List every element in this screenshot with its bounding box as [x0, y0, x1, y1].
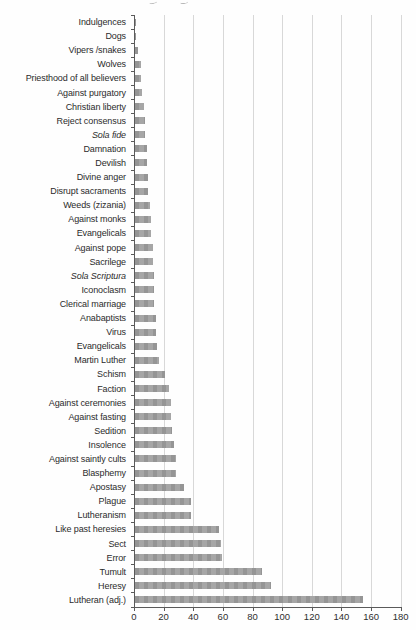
y-axis-tick	[131, 170, 134, 171]
table-row: Virus	[0, 325, 416, 339]
table-row: Devilish	[0, 156, 416, 170]
y-axis-tick	[131, 141, 134, 142]
table-row: Martin Luther	[0, 353, 416, 367]
category-label: Heresy	[0, 579, 126, 593]
table-row: Reject consensus	[0, 114, 416, 128]
table-row: Lutheranism	[0, 508, 416, 522]
category-label: Against saintly cults	[0, 452, 126, 466]
table-row: Lutheran (adj.)	[0, 593, 416, 607]
category-label: Iconoclasm	[0, 283, 126, 297]
table-row: Disrupt sacraments	[0, 184, 416, 198]
category-label: Tumult	[0, 565, 126, 579]
y-axis-tick	[131, 155, 134, 156]
category-label: Damnation	[0, 142, 126, 156]
category-label: Against ceremonies	[0, 396, 126, 410]
y-axis-tick	[131, 71, 134, 72]
bar	[135, 174, 148, 181]
bar	[135, 329, 156, 336]
category-label: Against monks	[0, 212, 126, 226]
category-label: Indulgences	[0, 15, 126, 29]
y-axis-tick	[131, 212, 134, 213]
y-axis-tick	[131, 409, 134, 410]
y-axis-tick	[131, 395, 134, 396]
y-axis-tick	[131, 564, 134, 565]
table-row: Christian liberty	[0, 100, 416, 114]
category-label: Sola fide	[0, 128, 126, 142]
y-axis-tick	[131, 29, 134, 30]
category-label: Clerical marriage	[0, 297, 126, 311]
category-label: Blasphemy	[0, 466, 126, 480]
bar	[135, 33, 136, 40]
category-label: Sedition	[0, 424, 126, 438]
y-axis-tick	[131, 127, 134, 128]
table-row: Against purgatory	[0, 85, 416, 99]
table-row: Insolence	[0, 438, 416, 452]
table-row: Sacrilege	[0, 255, 416, 269]
y-axis-line	[134, 15, 135, 607]
table-row: Divine anger	[0, 170, 416, 184]
category-label: Like past heresies	[0, 522, 126, 536]
y-axis-tick	[131, 367, 134, 368]
y-axis-tick	[131, 578, 134, 579]
x-axis-line	[134, 607, 402, 608]
category-label: Evangelicals	[0, 339, 126, 353]
bar	[135, 427, 172, 434]
x-tick-label: 180	[384, 611, 416, 622]
y-axis-tick	[131, 113, 134, 114]
bar	[135, 470, 176, 477]
table-row: Evangelicals	[0, 339, 416, 353]
category-label: Faction	[0, 381, 126, 395]
category-label: Dogs	[0, 29, 126, 43]
category-label: Insolence	[0, 438, 126, 452]
y-axis-tick	[131, 99, 134, 100]
y-axis-tick	[131, 339, 134, 340]
y-axis-tick	[131, 57, 134, 58]
bar	[135, 512, 191, 519]
y-axis-tick	[131, 85, 134, 86]
category-label: Sacrilege	[0, 255, 126, 269]
category-label: Plague	[0, 494, 126, 508]
table-row: Indulgences	[0, 15, 416, 29]
y-axis-tick	[131, 494, 134, 495]
y-axis-tick	[131, 451, 134, 452]
category-label: Against fasting	[0, 410, 126, 424]
category-label: Reject consensus	[0, 114, 126, 128]
category-label: Lutheranism	[0, 508, 126, 522]
table-row: Against fasting	[0, 410, 416, 424]
y-axis-tick	[131, 381, 134, 382]
bar	[135, 540, 221, 547]
category-label: Sect	[0, 537, 126, 551]
bar	[135, 554, 222, 561]
y-axis-tick	[131, 536, 134, 537]
y-axis-tick	[131, 226, 134, 227]
bar	[135, 61, 141, 68]
bar	[135, 399, 171, 406]
category-label: Vipers /snakes	[0, 43, 126, 57]
bar	[135, 568, 262, 575]
table-row: Faction	[0, 381, 416, 395]
category-label: Priesthood of all believers	[0, 71, 126, 85]
y-axis-tick	[131, 437, 134, 438]
bar	[135, 188, 148, 195]
bar	[135, 582, 271, 589]
y-axis-tick	[131, 15, 134, 16]
category-label: Anabaptists	[0, 311, 126, 325]
category-label: Virus	[0, 325, 126, 339]
bar	[135, 131, 145, 138]
bar	[135, 202, 150, 209]
table-row: Damnation	[0, 142, 416, 156]
table-row: Vipers /snakes	[0, 43, 416, 57]
y-axis-tick	[131, 268, 134, 269]
bar	[135, 526, 219, 533]
bar	[135, 230, 151, 237]
y-axis-tick	[131, 184, 134, 185]
bar	[135, 272, 154, 279]
table-row: Dogs	[0, 29, 416, 43]
table-row: Heresy	[0, 579, 416, 593]
category-label: Against pope	[0, 241, 126, 255]
table-row: Against ceremonies	[0, 396, 416, 410]
bar	[135, 47, 138, 54]
table-row: Sola Scriptura	[0, 269, 416, 283]
bar	[135, 455, 176, 462]
bar	[135, 89, 142, 96]
